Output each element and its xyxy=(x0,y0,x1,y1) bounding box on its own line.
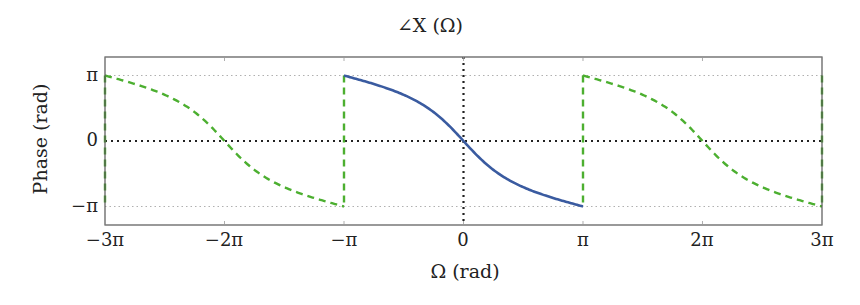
plot-area xyxy=(0,0,860,305)
phase-curves xyxy=(105,76,822,207)
